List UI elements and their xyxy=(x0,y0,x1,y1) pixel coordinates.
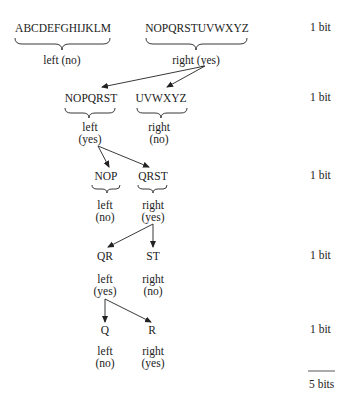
label-left-no: left (no) xyxy=(43,54,80,66)
label-right: right xyxy=(148,121,170,133)
bit-count-level-1: 1 bit xyxy=(310,21,331,33)
group-nopqrst: NOPQRST xyxy=(65,92,117,104)
group-nopqrstuvwxyz: NOPQRSTUVWXYZ xyxy=(145,22,249,34)
brace-nopqrstuvwxyz xyxy=(146,38,247,50)
label-right: right xyxy=(142,273,164,285)
group-nop: NOP xyxy=(94,170,117,182)
group-uvwxyz: UVWXYZ xyxy=(135,92,186,104)
brace-abcdefghijklm xyxy=(15,38,110,50)
bit-count-level-3: 1 bit xyxy=(310,169,331,181)
total-bits: 5 bits xyxy=(309,378,334,390)
brace-nopqrst xyxy=(65,108,115,118)
group-q: Q xyxy=(101,324,109,336)
label-yes: (yes) xyxy=(94,285,117,297)
arrow-to-nop xyxy=(98,146,109,167)
arrow-to-qr xyxy=(108,224,153,247)
label-yes: (yes) xyxy=(79,133,102,145)
label-right-yes: right (yes) xyxy=(172,54,220,66)
brace-qrst xyxy=(138,185,167,193)
group-st: ST xyxy=(146,250,159,262)
bit-count-level-4: 1 bit xyxy=(310,249,331,261)
label-left: left xyxy=(97,273,112,285)
label-left: left xyxy=(82,121,97,133)
label-yes: (yes) xyxy=(142,211,165,223)
brace-nop xyxy=(92,185,120,193)
label-left: left xyxy=(97,345,112,357)
group-r: R xyxy=(148,324,156,336)
label-no: (no) xyxy=(149,133,168,145)
arrow-to-r xyxy=(105,299,151,322)
label-yes: (yes) xyxy=(142,357,165,369)
label-no: (no) xyxy=(95,357,114,369)
label-left: left xyxy=(97,199,112,211)
group-qr: QR xyxy=(97,250,113,262)
brace-uvwxyz xyxy=(137,108,187,118)
group-abcdefghijklm: ABCDEFGHIJKLM xyxy=(15,22,111,34)
label-no: (no) xyxy=(143,285,162,297)
arrow-to-nopqrst xyxy=(102,66,205,87)
bit-count-level-2: 1 bit xyxy=(310,91,331,103)
arrow-to-qrst xyxy=(98,146,149,167)
group-qrst: QRST xyxy=(138,170,167,182)
arrow-to-uvwxyz xyxy=(167,66,205,87)
label-no: (no) xyxy=(95,211,114,223)
label-right: right xyxy=(142,345,164,357)
label-right: right xyxy=(142,199,164,211)
bit-count-level-5: 1 bit xyxy=(310,323,331,335)
